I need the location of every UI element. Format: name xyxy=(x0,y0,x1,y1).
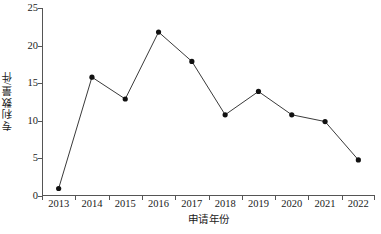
series-line xyxy=(59,32,359,188)
data-point-marker xyxy=(322,119,327,124)
data-series xyxy=(42,8,375,196)
y-tick-mark xyxy=(38,83,42,84)
y-tick-mark xyxy=(38,46,42,47)
y-tick-mark xyxy=(38,158,42,159)
data-point-marker xyxy=(189,59,194,64)
x-tick-label: 2020 xyxy=(281,199,302,210)
data-point-marker xyxy=(289,112,294,117)
y-axis-title-text: 专利数量/件 xyxy=(3,70,14,131)
line-chart: 专利数量/件 0510152025 2013201420152016201720… xyxy=(0,0,381,234)
x-tick-label: 2021 xyxy=(315,199,336,210)
x-tick-label: 2013 xyxy=(48,199,69,210)
x-tick-label: 2018 xyxy=(215,199,236,210)
x-tick-label: 2019 xyxy=(248,199,269,210)
data-point-marker xyxy=(256,89,261,94)
data-point-marker xyxy=(223,112,228,117)
x-tick-label: 2015 xyxy=(115,199,136,210)
data-point-marker xyxy=(89,75,94,80)
x-axis-tick-labels: 2013201420152016201720182019202020212022 xyxy=(42,199,375,213)
plot-area xyxy=(42,8,375,196)
y-tick-mark xyxy=(38,8,42,9)
y-tick-label: 20 xyxy=(16,40,38,51)
x-tick-label: 2017 xyxy=(181,199,202,210)
y-tick-label: 10 xyxy=(16,116,38,127)
x-tick-label: 2014 xyxy=(81,199,102,210)
y-tick-label: 15 xyxy=(16,78,38,89)
y-axis-title: 专利数量/件 xyxy=(0,0,16,200)
data-point-marker xyxy=(123,96,128,101)
y-tick-label: 5 xyxy=(16,153,38,164)
y-tick-label: 25 xyxy=(16,3,38,14)
x-tick-label: 2022 xyxy=(348,199,369,210)
x-tick-label: 2016 xyxy=(148,199,169,210)
data-point-marker xyxy=(356,157,361,162)
y-tick-mark xyxy=(38,121,42,122)
data-point-marker xyxy=(56,186,61,191)
x-axis-title: 申请年份 xyxy=(42,215,375,226)
data-point-marker xyxy=(156,29,161,34)
y-axis-tick-labels: 0510152025 xyxy=(16,0,38,234)
y-tick-label: 0 xyxy=(16,191,38,202)
